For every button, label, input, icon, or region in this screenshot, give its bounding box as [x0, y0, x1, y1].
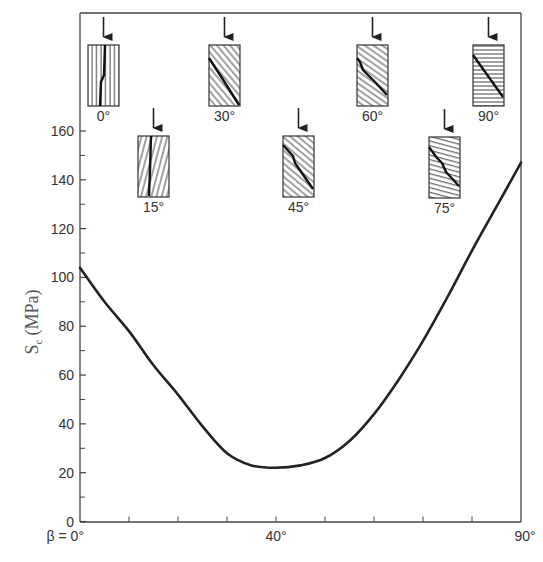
specimen-45: 45° [283, 108, 314, 215]
y-tick-label: 40 [58, 416, 74, 432]
specimen-label: 60° [362, 108, 383, 124]
x-axis-tick-labels: β = 0°40°90° [47, 528, 536, 544]
y-axis-title: Sc(MPa) [22, 290, 44, 355]
y-axis-title-subscript: c [32, 339, 44, 344]
specimen-label: 15° [143, 199, 164, 215]
specimen-block [138, 136, 169, 197]
y-tick-label: 60 [58, 367, 74, 383]
specimen-label: 75° [434, 200, 455, 216]
y-tick-label: 20 [58, 465, 74, 481]
chart-svg: 020406080100120140160 β = 0°40°90° Sc(MP… [0, 0, 543, 562]
specimen-label: 45° [288, 199, 309, 215]
specimen-label: 30° [214, 108, 235, 124]
specimen-block [209, 45, 240, 106]
specimen-90: 90° [473, 17, 504, 124]
specimen-label: 90° [478, 108, 499, 124]
y-axis-title-unit: (MPa) [22, 290, 43, 336]
y-tick-label: 120 [51, 221, 75, 237]
y-tick-label: 100 [51, 269, 75, 285]
x-axis-ticks [129, 517, 472, 522]
specimen-block [357, 45, 388, 106]
specimen-75: 75° [429, 109, 460, 216]
specimen-60: 60° [357, 17, 388, 124]
specimen-0: 0° [88, 17, 119, 124]
y-axis-ticks [80, 131, 86, 522]
specimen-diagrams: 0°15°30°45°60°75°90° [88, 17, 504, 216]
plot-frame [80, 13, 521, 522]
y-tick-label: 80 [58, 318, 74, 334]
y-axis-title-symbol: S [22, 344, 42, 354]
x-tick-label: 90° [514, 528, 535, 544]
x-tick-label: β = 0° [47, 528, 84, 544]
y-tick-label: 160 [51, 123, 75, 139]
y-axis-tick-labels: 020406080100120140160 [51, 123, 75, 530]
specimen-15: 15° [138, 108, 169, 215]
specimen-label: 0° [97, 108, 110, 124]
y-tick-label: 140 [51, 172, 75, 188]
x-tick-label: 40° [265, 528, 286, 544]
specimen-30: 30° [209, 17, 240, 124]
